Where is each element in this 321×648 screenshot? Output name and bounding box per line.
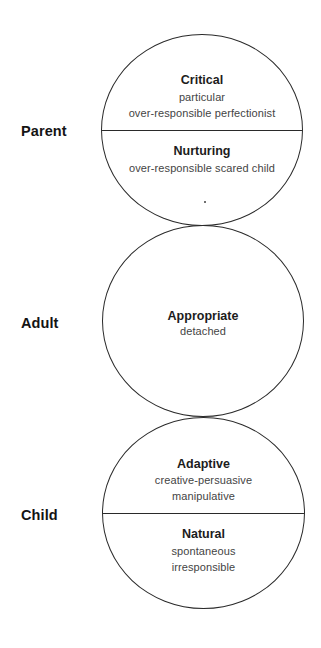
adaptive-title: Adaptive <box>103 457 304 471</box>
stray-dot <box>204 201 206 203</box>
adult-label: Adult <box>21 315 59 331</box>
natural-desc-2: irresponsible <box>103 561 304 574</box>
nurturing-title: Nurturing <box>102 144 302 158</box>
adult-circle: Appropriate detached <box>102 225 304 417</box>
appropriate-desc-1: detached <box>103 325 303 338</box>
child-circle: Adaptive creative-persuasive manipulativ… <box>102 417 305 609</box>
critical-desc-2: over-responsible perfectionist <box>102 107 302 120</box>
child-label: Child <box>21 507 58 523</box>
nurturing-desc-1: over-responsible scared child <box>102 162 302 175</box>
natural-title: Natural <box>103 527 304 541</box>
critical-desc-1: particular <box>102 91 302 104</box>
child-divider <box>103 513 304 514</box>
natural-desc-1: spontaneous <box>103 545 304 558</box>
adaptive-desc-1: creative-persuasive <box>103 474 304 487</box>
parent-divider <box>102 130 302 131</box>
parent-circle: Critical particular over-responsible per… <box>101 34 303 226</box>
parent-label: Parent <box>21 123 67 139</box>
appropriate-title: Appropriate <box>103 309 303 323</box>
critical-title: Critical <box>102 73 302 87</box>
adaptive-desc-2: manipulative <box>103 490 304 503</box>
